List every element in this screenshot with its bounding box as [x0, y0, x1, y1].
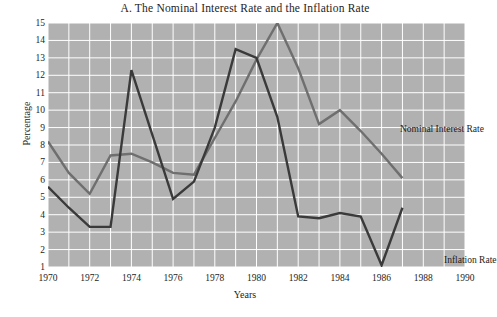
- x-tick-1982: 1982: [278, 272, 318, 284]
- y-tick-2: 2: [3, 245, 45, 255]
- x-tick-1976: 1976: [153, 272, 193, 284]
- x-tick-1978: 1978: [195, 272, 235, 284]
- y-tick-15: 15: [3, 18, 45, 28]
- x-tick-1980: 1980: [237, 272, 277, 284]
- chart-title: A. The Nominal Interest Rate and the Inf…: [0, 2, 490, 14]
- y-tick-3: 3: [3, 227, 45, 237]
- y-tick-14: 14: [3, 35, 45, 45]
- y-tick-12: 12: [3, 70, 45, 80]
- y-tick-5: 5: [3, 192, 45, 202]
- x-tick-1974: 1974: [111, 272, 151, 284]
- chart-lines: [48, 23, 465, 267]
- x-axis-title: Years: [0, 289, 490, 300]
- x-tick-1988: 1988: [403, 272, 443, 284]
- y-tick-6: 6: [3, 175, 45, 185]
- plot-area-wrapper: Nominal Interest Rate Inflation Rate: [48, 23, 465, 267]
- x-tick-1970: 1970: [28, 272, 68, 284]
- x-tick-1972: 1972: [70, 272, 110, 284]
- series-label-inflation-rate: Inflation Rate: [444, 255, 497, 266]
- y-tick-1: 1: [3, 262, 45, 272]
- series-line-inflation-rate: [48, 49, 402, 265]
- x-tick-1986: 1986: [362, 272, 402, 284]
- x-tick-1990: 1990: [445, 272, 485, 284]
- series-polylines: [48, 23, 402, 265]
- x-axis-tick-labels: 1970197219741976197819801982198419861988…: [48, 272, 465, 286]
- series-label-nominal-interest-rate: Nominal Interest Rate: [400, 124, 484, 135]
- x-tick-1984: 1984: [320, 272, 360, 284]
- y-tick-13: 13: [3, 53, 45, 63]
- y-axis-title: Percentage: [21, 84, 32, 164]
- series-line-nominal-interest-rate: [48, 23, 402, 194]
- y-tick-4: 4: [3, 210, 45, 220]
